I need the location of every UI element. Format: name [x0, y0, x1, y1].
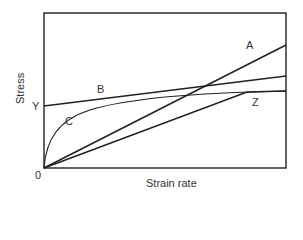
y-axis-label: Stress: [14, 73, 26, 104]
label-b: B: [97, 84, 104, 95]
origin-label: 0: [35, 170, 41, 181]
label-a: A: [246, 40, 253, 51]
x-axis-label: Strain rate: [146, 178, 197, 189]
curve-a: [44, 45, 286, 168]
y-tick-label: Y: [32, 101, 39, 112]
curve-z: [44, 91, 286, 168]
label-z: Z: [252, 97, 259, 108]
curve-b: [44, 76, 286, 106]
label-c: C: [65, 116, 73, 127]
curve-c: [44, 91, 286, 168]
